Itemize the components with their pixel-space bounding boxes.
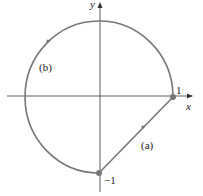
y-arrow-icon — [98, 2, 103, 8]
contour-diagram: x y 1 −1 (a) (b) — [0, 0, 203, 196]
x-arrow-icon — [187, 94, 193, 99]
y-label: y — [89, 0, 95, 10]
point-1-label: 1 — [176, 84, 182, 96]
path-a-label: (a) — [141, 139, 154, 152]
point-minus-1-label: −1 — [104, 174, 116, 186]
x-label: x — [185, 100, 191, 112]
arc-direction-marker — [46, 39, 49, 42]
path-b-label: (b) — [39, 61, 52, 74]
segment-a — [99, 97, 173, 173]
point-minus-1 — [96, 170, 102, 176]
segment-direction-marker — [141, 125, 144, 128]
